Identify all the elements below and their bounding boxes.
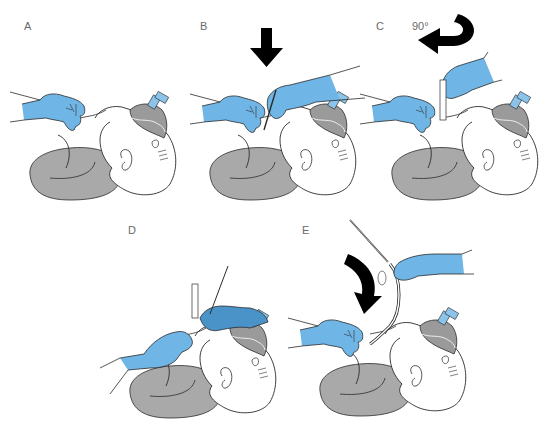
panel-e: E bbox=[290, 210, 480, 436]
illustration-b bbox=[180, 0, 365, 210]
illustration-e bbox=[290, 216, 480, 436]
illustration-a bbox=[0, 0, 180, 210]
curved-down-arrow-icon bbox=[344, 254, 382, 314]
panel-a: A bbox=[0, 0, 180, 210]
panel-d: D bbox=[100, 210, 290, 436]
rotate-arrow-icon bbox=[418, 14, 474, 54]
illustration-d bbox=[100, 218, 290, 436]
illustration-c bbox=[362, 0, 547, 210]
down-arrow-icon bbox=[250, 28, 283, 67]
panel-b: B bbox=[180, 0, 365, 210]
panel-c: C 90° bbox=[362, 0, 547, 210]
